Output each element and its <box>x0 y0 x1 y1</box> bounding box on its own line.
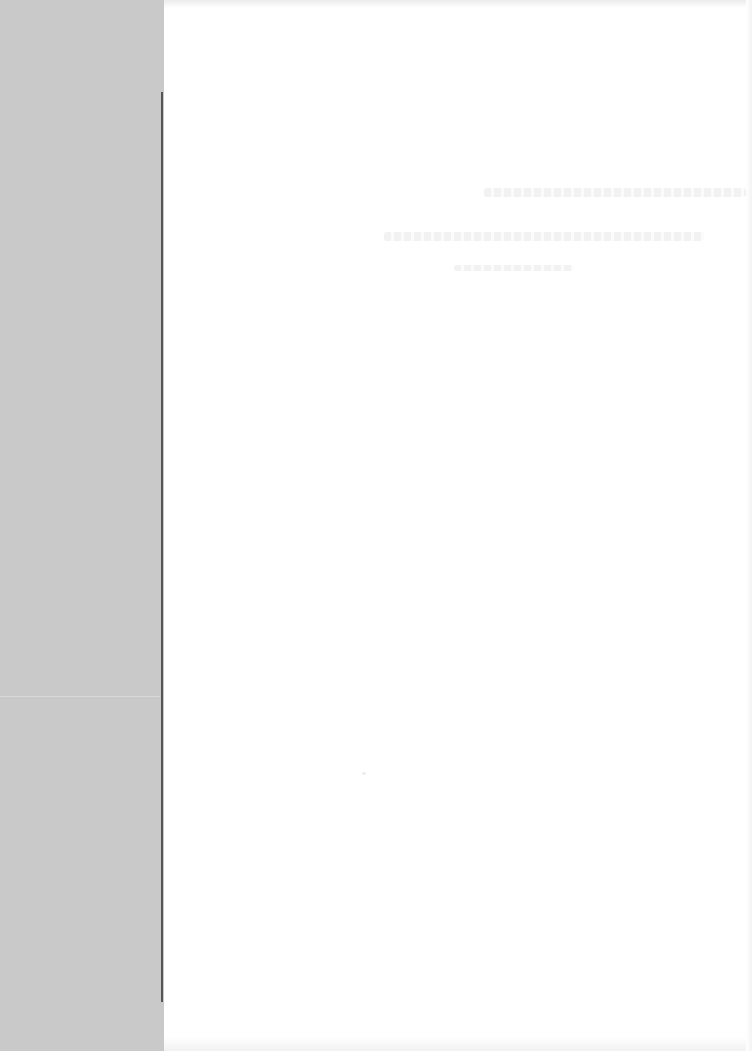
faint-text-line-3 <box>454 265 574 271</box>
right-edge-shadow <box>746 0 752 1051</box>
bottom-edge-shadow <box>164 1037 752 1051</box>
scan-speck <box>362 772 366 775</box>
faint-text-line-2 <box>384 232 704 241</box>
left-margin-panel <box>0 0 164 1051</box>
page-body <box>164 0 752 1051</box>
horizontal-fold-line <box>0 696 160 697</box>
vertical-rule <box>161 92 163 1002</box>
faint-text-line-1 <box>484 188 746 197</box>
